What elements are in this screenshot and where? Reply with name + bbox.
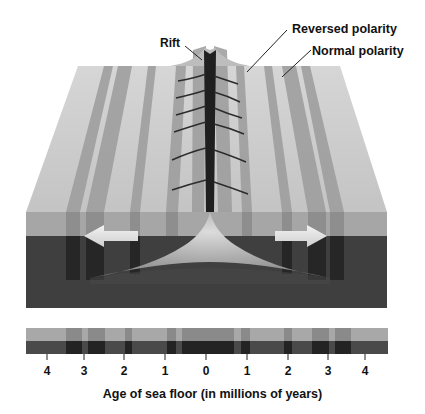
axis-title: Age of sea floor (in millions of years): [0, 387, 425, 401]
tick-label: 1: [237, 364, 257, 378]
tick-label: 2: [114, 364, 134, 378]
block-top-surface: [26, 46, 387, 212]
normal-polarity-label: Normal polarity: [312, 44, 404, 58]
rift-label: Rift: [160, 36, 180, 50]
tick-label: 3: [74, 364, 94, 378]
tick-label: 4: [37, 364, 57, 378]
polarity-strip: [26, 328, 388, 360]
block-front-face: [26, 212, 387, 308]
reversed-polarity-label: Reversed polarity: [292, 22, 397, 36]
tick-label: 3: [318, 364, 338, 378]
seafloor-spreading-diagram: [0, 0, 425, 414]
tick-label: 2: [278, 364, 298, 378]
axis-ticks: [47, 354, 365, 360]
tick-label: 4: [355, 364, 375, 378]
tick-label: 0: [196, 364, 216, 378]
tick-label: 1: [155, 364, 175, 378]
